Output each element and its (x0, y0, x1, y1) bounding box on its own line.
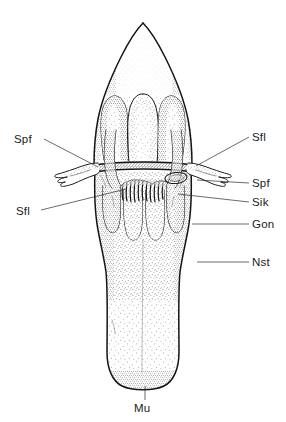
label-mu-bottom: Mu (134, 402, 150, 414)
label-spf-right: Spf (252, 177, 270, 189)
label-sik-right: Sik (252, 196, 269, 208)
label-sfl-right: Sfl (252, 131, 266, 143)
label-spf-left: Spf (14, 133, 32, 145)
label-nst-right: Nst (252, 256, 270, 268)
lateral-projection-left (55, 163, 100, 186)
leader-spf-left (44, 139, 98, 167)
figure-root: Spf Sfl Sfl Spf Sik Gon Nst Mu (0, 0, 286, 422)
lateral-projection-right (186, 163, 231, 186)
leader-sfl-right (196, 137, 249, 166)
label-sfl-left: Sfl (16, 205, 30, 217)
label-gon-right: Gon (252, 218, 274, 230)
anatomical-diagram: Spf Sfl Sfl Spf Sik Gon Nst Mu (0, 0, 286, 422)
organism-body (55, 20, 232, 392)
